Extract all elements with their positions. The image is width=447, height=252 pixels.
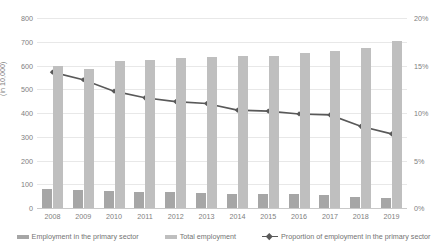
- x-axis-tick-label: 2018: [345, 212, 376, 221]
- legend-line-swatch-icon: [262, 234, 278, 239]
- y-axis-tick-label: 100: [3, 180, 33, 189]
- legend-label: Proportion of employment in the primary …: [281, 232, 430, 241]
- x-axis-tick-label: 2008: [37, 212, 68, 221]
- secondary-y-axis-tick-label: 20%: [414, 14, 444, 23]
- x-axis-tick-label: 2013: [191, 212, 222, 221]
- bar-primary-sector: [258, 194, 268, 208]
- bar-total-employment: [145, 60, 155, 208]
- x-axis-line: [37, 208, 407, 209]
- legend-label: Total employment: [180, 232, 236, 241]
- y-axis-tick-label: 200: [3, 156, 33, 165]
- bar-primary-sector: [319, 195, 329, 208]
- bar-primary-sector: [73, 190, 83, 208]
- bar-primary-sector: [104, 191, 114, 208]
- bar-primary-sector: [381, 198, 391, 208]
- bar-total-employment: [238, 56, 248, 208]
- bar-primary-sector: [165, 192, 175, 208]
- plot-area: 2008: 14.3%2009: 13.5%2010: 12.3%2011: 1…: [37, 18, 407, 208]
- y-axis-tick-label: 500: [3, 85, 33, 94]
- secondary-y-axis-tick-label: 15%: [414, 61, 444, 70]
- secondary-y-axis-tick-label: 5%: [414, 156, 444, 165]
- y-axis-tick-label: 600: [3, 61, 33, 70]
- x-axis-tick-label: 2011: [130, 212, 161, 221]
- legend-bar-swatch-icon: [165, 235, 177, 239]
- secondary-y-axis-tick-label: 10%: [414, 109, 444, 118]
- bar-total-employment: [176, 58, 186, 208]
- y-axis-tick-label: 800: [3, 14, 33, 23]
- x-axis-tick-label: 2019: [376, 212, 407, 221]
- bar-primary-sector: [196, 193, 206, 208]
- bar-total-employment: [392, 41, 402, 208]
- bar-primary-sector: [134, 192, 144, 208]
- y-axis-tick-label: 700: [3, 37, 33, 46]
- legend-item[interactable]: Total employment: [165, 232, 236, 241]
- y-axis-tick-label: 400: [3, 109, 33, 118]
- bar-primary-sector: [227, 194, 237, 208]
- bar-primary-sector: [350, 197, 360, 208]
- legend-bar-swatch-icon: [17, 235, 29, 239]
- bar-total-employment: [300, 53, 310, 208]
- x-axis-tick-label: 2017: [315, 212, 346, 221]
- y-axis-tick-label: 300: [3, 132, 33, 141]
- y-axis-tick-label: 0: [3, 204, 33, 213]
- x-axis-tick-label: 2010: [99, 212, 130, 221]
- bar-total-employment: [207, 57, 217, 208]
- bar-primary-sector: [42, 189, 52, 208]
- bar-total-employment: [330, 51, 340, 208]
- legend-item[interactable]: Proportion of employment in the primary …: [262, 232, 430, 241]
- chart-container: (in 10,000) 2008: 14.3%2009: 13.5%2010: …: [0, 0, 447, 252]
- proportion-line: [52, 72, 391, 134]
- bar-total-employment: [269, 56, 279, 208]
- chart-legend: Employment in the primary sectorTotal em…: [0, 232, 447, 241]
- x-axis-tick-label: 2012: [160, 212, 191, 221]
- x-axis-tick-label: 2015: [253, 212, 284, 221]
- bar-total-employment: [84, 69, 94, 208]
- x-axis-tick-label: 2016: [284, 212, 315, 221]
- legend-label: Employment in the primary sector: [32, 232, 139, 241]
- bar-primary-sector: [289, 194, 299, 208]
- legend-item[interactable]: Employment in the primary sector: [17, 232, 139, 241]
- x-axis-tick-label: 2014: [222, 212, 253, 221]
- bar-total-employment: [361, 48, 371, 208]
- bar-total-employment: [53, 66, 63, 209]
- bar-total-employment: [115, 61, 125, 208]
- x-axis-tick-label: 2009: [68, 212, 99, 221]
- secondary-y-axis-tick-label: 0%: [414, 204, 444, 213]
